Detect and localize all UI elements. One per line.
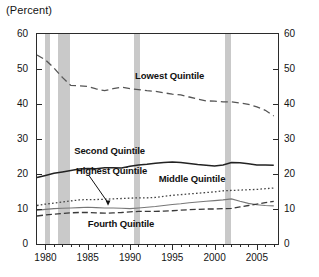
y-tick-mark bbox=[37, 69, 42, 70]
x-tick-major bbox=[215, 244, 216, 250]
y-tick-label-right: 20 bbox=[284, 168, 306, 179]
y-tick-mark bbox=[273, 104, 278, 105]
x-tick-minor bbox=[223, 244, 224, 247]
quintile-share-line-chart: (Percent) Lowest QuintileSecond Quintile… bbox=[0, 0, 319, 277]
y-tick-label-right: 60 bbox=[284, 28, 306, 39]
series-line bbox=[37, 188, 274, 206]
y-tick-label-right: 30 bbox=[284, 133, 306, 144]
x-tick-major bbox=[130, 244, 131, 250]
y-tick-label-right: 50 bbox=[284, 63, 306, 74]
x-tick-minor bbox=[265, 244, 266, 247]
series-label: Second Quintile bbox=[74, 145, 145, 156]
x-tick-minor bbox=[164, 244, 165, 247]
x-tick-minor bbox=[54, 244, 55, 247]
y-tick-label-right: 10 bbox=[284, 203, 306, 214]
x-tick-minor bbox=[147, 244, 148, 247]
x-tick-label: 1980 bbox=[25, 252, 65, 263]
x-tick-minor bbox=[71, 244, 72, 247]
x-tick-major bbox=[257, 244, 258, 250]
y-tick-mark bbox=[273, 139, 278, 140]
x-tick-minor bbox=[206, 244, 207, 247]
y-tick-mark bbox=[37, 104, 42, 105]
x-tick-minor bbox=[181, 244, 182, 247]
x-tick-minor bbox=[96, 244, 97, 247]
series-line bbox=[37, 199, 274, 211]
x-tick-minor bbox=[274, 244, 275, 247]
y-tick-mark bbox=[37, 139, 42, 140]
x-tick-minor bbox=[155, 244, 156, 247]
x-tick-minor bbox=[138, 244, 139, 247]
y-tick-mark bbox=[273, 209, 278, 210]
label-arrow bbox=[89, 176, 108, 203]
series-line bbox=[37, 55, 274, 116]
y-tick-mark bbox=[37, 209, 42, 210]
plot-area: Lowest QuintileSecond QuintileMiddle Qui… bbox=[36, 33, 279, 245]
y-tick-mark bbox=[37, 174, 42, 175]
series-line bbox=[37, 201, 274, 216]
x-tick-minor bbox=[231, 244, 232, 247]
series-line bbox=[37, 162, 274, 177]
y-tick-label-left: 30 bbox=[6, 133, 28, 144]
y-axis-unit-label: (Percent) bbox=[6, 4, 52, 16]
label-arrowhead bbox=[106, 200, 111, 205]
x-tick-minor bbox=[122, 244, 123, 247]
y-tick-label-left: 20 bbox=[6, 168, 28, 179]
y-tick-label-right: 0 bbox=[284, 238, 306, 249]
x-tick-minor bbox=[113, 244, 114, 247]
y-tick-mark bbox=[273, 69, 278, 70]
y-tick-label-left: 60 bbox=[6, 28, 28, 39]
series-label: Middle Quintile bbox=[159, 173, 226, 184]
x-tick-major bbox=[172, 244, 173, 250]
y-tick-label-left: 40 bbox=[6, 98, 28, 109]
y-tick-mark bbox=[273, 174, 278, 175]
y-tick-label-left: 10 bbox=[6, 203, 28, 214]
y-tick-label-right: 40 bbox=[284, 98, 306, 109]
x-tick-label: 2000 bbox=[195, 252, 235, 263]
x-tick-minor bbox=[189, 244, 190, 247]
x-tick-label: 1990 bbox=[110, 252, 150, 263]
x-tick-label: 2005 bbox=[237, 252, 277, 263]
x-tick-minor bbox=[62, 244, 63, 247]
y-tick-label-left: 50 bbox=[6, 63, 28, 74]
series-label: Fourth Quintile bbox=[88, 218, 155, 229]
x-tick-minor bbox=[248, 244, 249, 247]
series-lines bbox=[37, 34, 278, 244]
x-tick-major bbox=[45, 244, 46, 250]
x-tick-minor bbox=[105, 244, 106, 247]
x-tick-minor bbox=[79, 244, 80, 247]
x-tick-label: 1985 bbox=[68, 252, 108, 263]
series-label: Highest Quintile bbox=[76, 165, 147, 176]
x-tick-major bbox=[88, 244, 89, 250]
x-tick-label: 1995 bbox=[152, 252, 192, 263]
series-label: Lowest Quintile bbox=[135, 70, 204, 81]
y-tick-label-left: 0 bbox=[6, 238, 28, 249]
x-tick-minor bbox=[240, 244, 241, 247]
x-tick-minor bbox=[198, 244, 199, 247]
